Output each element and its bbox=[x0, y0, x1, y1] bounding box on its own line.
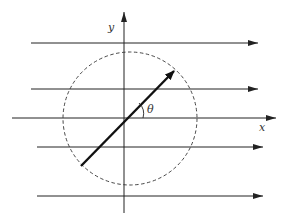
x-axis-label: x bbox=[259, 121, 266, 134]
angle-label: θ bbox=[147, 103, 154, 116]
y-axis-label: y bbox=[107, 21, 115, 34]
flow-diagram: y x θ bbox=[0, 0, 285, 223]
